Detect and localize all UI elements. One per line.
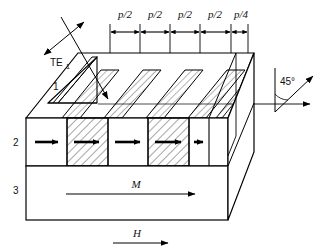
front-faces <box>26 118 228 220</box>
field-label: H <box>132 227 142 239</box>
angle-label: 45° <box>280 76 295 87</box>
applied-field: H <box>113 227 168 243</box>
dimension-label-2: p/2 <box>147 8 163 20</box>
dimension-label-5: p/4 <box>233 8 249 20</box>
diagram-canvas: p/2 p/2 p/2 p/2 p/4 TE 1 45° M H <box>0 0 323 251</box>
te-mode-subscript: 1 <box>66 63 70 70</box>
polarization-double-arrow <box>44 22 84 55</box>
angle-indicator: 45° <box>275 68 313 112</box>
layer-3-face <box>26 166 228 220</box>
dimension-label-4: p/2 <box>207 8 223 20</box>
layer-callout-2: 2 <box>13 137 19 148</box>
angle-arc <box>275 94 288 100</box>
technical-diagram: p/2 p/2 p/2 p/2 p/4 TE 1 45° M H <box>0 0 323 251</box>
magnetization-label: M <box>130 178 141 190</box>
layer-callout-1: 1 <box>53 81 59 92</box>
dimension-row: p/2 p/2 p/2 p/2 p/4 <box>110 8 249 53</box>
dimension-label-3: p/2 <box>177 8 193 20</box>
te-mode-label: TE <box>50 57 63 68</box>
dimension-label-1: p/2 <box>117 8 133 20</box>
layer-callout-3: 3 <box>13 185 19 196</box>
dimension-ticks <box>110 24 248 53</box>
